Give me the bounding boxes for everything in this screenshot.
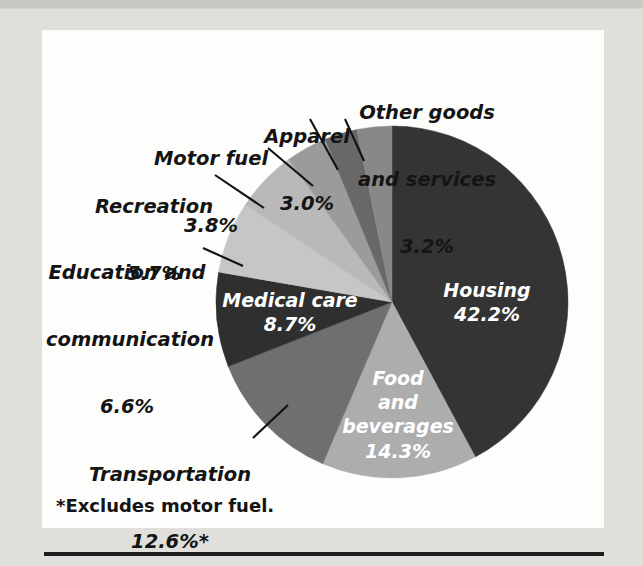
slice-label-housing-percent: 42.2% — [453, 303, 520, 325]
callout-other-goods-and-services-line1: Other goods — [357, 102, 497, 124]
callout-other-goods-and-services-line2: and services — [357, 169, 497, 191]
footnote-excludes-motor-fuel: *Excludes motor fuel. — [56, 495, 274, 516]
callout-transportation-percent: 12.6%* — [88, 531, 252, 553]
callout-education-and-communication-line2: communication — [46, 329, 208, 351]
slice-label-medical-care-name: Medical care — [222, 289, 358, 311]
callout-other-goods-and-services-percent: 3.2% — [357, 236, 497, 258]
callout-recreation-line1: Recreation — [92, 196, 216, 218]
slice-label-food-and-beverages-percent: 14.3% — [365, 440, 431, 462]
callout-education-and-communication-percent: 6.6% — [46, 396, 208, 418]
slice-label-food-and-beverages-line1: Food — [372, 367, 424, 389]
callout-transportation: Transportation 12.6%* — [88, 420, 252, 566]
callout-other-goods-and-services: Other goods and services 3.2% — [357, 58, 497, 302]
slice-label-food-and-beverages-line3: beverages — [342, 415, 454, 437]
slice-label-medical-care-percent: 8.7% — [264, 313, 317, 335]
callout-education-and-communication-line1: Education and — [46, 262, 208, 284]
bottom-divider-rule — [44, 552, 604, 556]
slice-label-food-and-beverages-line2: and — [378, 391, 418, 413]
pie-chart: Housing 42.2% Food and beverages 14.3% M… — [0, 0, 643, 566]
callout-transportation-line1: Transportation — [88, 464, 252, 486]
